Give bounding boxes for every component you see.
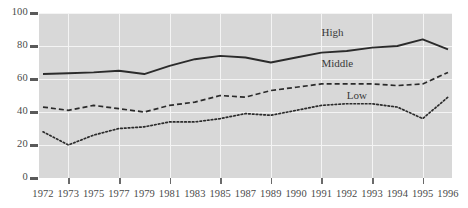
series-annotations: HighMiddleLow <box>0 0 468 208</box>
series-annotation-low: Low <box>347 89 367 101</box>
series-annotation-high: High <box>321 26 343 38</box>
line-chart: 020406080100 197219731975197719791981198… <box>0 0 468 208</box>
series-annotation-middle: Middle <box>321 57 353 69</box>
